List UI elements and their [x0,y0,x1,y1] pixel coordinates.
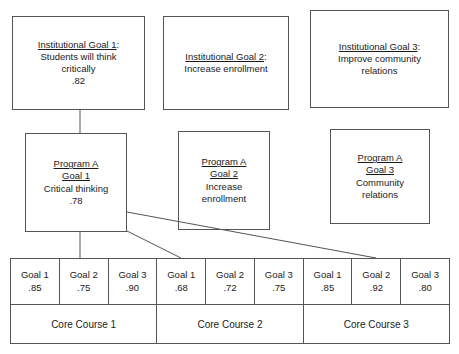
goal-cell-label: Goal 2 [362,269,390,281]
course-alignment-table: Goal 1 .85 Goal 2 .75 Goal 3 .90 Goal 1 … [10,258,450,344]
goal-score-row: Goal 1 .85 Goal 2 .75 Goal 3 .90 Goal 1 … [11,259,449,305]
program-a-goal-1-desc-line1: Critical thinking [44,183,108,195]
program-a-goal-1-score: .78 [69,195,82,207]
program-a-goal-2-program: Program A [202,156,247,168]
program-a-goal-1-program: Program A [54,158,99,170]
goal-cell[interactable]: Goal 2 .72 [206,259,255,304]
goal-cell[interactable]: Goal 3 .75 [255,259,304,304]
goal-cell-value: .75 [272,282,285,294]
program-a-goal-3-desc-line1: Community [356,177,404,189]
course-row: Core Course 1 Core Course 2 Core Course … [11,305,449,343]
goal-cell-label: Goal 2 [216,269,244,281]
goal-cell-label: Goal 1 [167,269,195,281]
goal-cell[interactable]: Goal 2 .75 [60,259,109,304]
institutional-goal-1-box[interactable]: Institutional Goal 1: Students will thin… [12,16,145,110]
course-cell-3[interactable]: Core Course 3 [304,305,449,343]
institutional-goal-1-desc-line2: critically [62,63,96,75]
goal-cell[interactable]: Goal 2 .92 [352,259,401,304]
goal-cell-label: Goal 1 [21,269,49,281]
goal-cell[interactable]: Goal 1 .85 [11,259,60,304]
goal-cell-value: .68 [175,282,188,294]
goal-cell-value: .72 [223,282,236,294]
goal-cell[interactable]: Goal 1 .68 [157,259,206,304]
goal-cell-label: Goal 3 [411,269,439,281]
institutional-goal-2-desc-line1: Increase enrollment [184,63,267,75]
goal-cell-label: Goal 3 [265,269,293,281]
goal-cell-label: Goal 2 [70,269,98,281]
institutional-goal-2-heading: Institutional Goal 2: [185,51,266,63]
program-a-goal-2-goal: Goal 2 [210,168,238,180]
goal-cell-value: .80 [419,282,432,294]
goal-cell-value: .92 [370,282,383,294]
program-a-goal-2-desc-line1: Increase [206,181,242,193]
goal-cell-value: .85 [321,282,334,294]
goal-cell-value: .75 [77,282,90,294]
institutional-goal-3-desc-line2: relations [362,65,398,77]
institutional-goal-1-desc-line1: Students will think [40,51,116,63]
course-cell-1[interactable]: Core Course 1 [11,305,157,343]
course-label: Core Course 3 [344,319,409,330]
institutional-goal-2-box[interactable]: Institutional Goal 2: Increase enrollmen… [163,16,289,110]
goal-cell[interactable]: Goal 3 .80 [401,259,449,304]
course-label: Core Course 1 [51,319,116,330]
institutional-goal-3-box[interactable]: Institutional Goal 3: Improve community … [310,10,449,108]
institutional-goal-3-desc-line1: Improve community [338,53,421,65]
connector-prog1-to-course2 [127,231,181,258]
goal-cell-value: .90 [126,282,139,294]
program-a-goal-3-goal: Goal 3 [366,164,394,176]
goal-cell-value: .85 [28,282,41,294]
program-a-goal-3-box[interactable]: Program A Goal 3 Community relations [330,129,430,224]
goal-cell[interactable]: Goal 3 .90 [109,259,158,304]
goal-cell-label: Goal 3 [118,269,146,281]
program-a-goal-1-box[interactable]: Program A Goal 1 Critical thinking .78 [25,133,127,232]
course-label: Core Course 2 [197,319,262,330]
program-a-goal-2-box[interactable]: Program A Goal 2 Increase enrollment [178,131,270,230]
program-a-goal-3-desc-line2: relations [362,189,398,201]
program-a-goal-3-program: Program A [358,152,403,164]
program-a-goal-2-desc-line2: enrollment [202,193,246,205]
institutional-goal-1-heading: Institutional Goal 1: [38,39,119,51]
program-a-goal-1-goal: Goal 1 [62,170,90,182]
course-cell-2[interactable]: Core Course 2 [157,305,303,343]
institutional-goal-3-heading: Institutional Goal 3: [339,41,420,53]
institutional-goal-1-score: .82 [72,75,85,87]
goal-cell-label: Goal 1 [314,269,342,281]
diagram-canvas: Institutional Goal 1: Students will thin… [0,0,459,354]
goal-cell[interactable]: Goal 1 .85 [304,259,353,304]
